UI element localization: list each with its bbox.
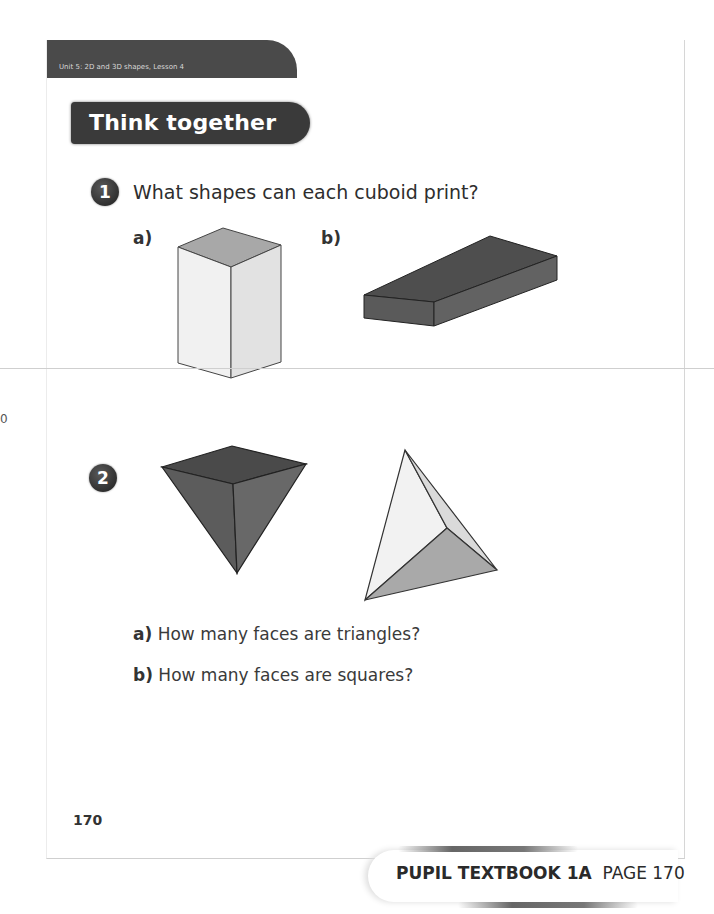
footer-label: PUPIL TEXTBOOK 1A PAGE 170 (396, 863, 685, 883)
triangular-pyramid-figure (47, 40, 684, 858)
question-2a: a) How many faces are triangles? (133, 624, 420, 644)
question-2a-text: How many faces are triangles? (158, 624, 421, 644)
page-number: 170 (73, 812, 102, 828)
question-2b-label: b) (133, 665, 153, 685)
footer-decor-bar-bottom (458, 902, 638, 908)
footer-tab: PUPIL TEXTBOOK 1A PAGE 170 (368, 850, 678, 902)
question-2a-label: a) (133, 624, 152, 644)
footer-book: PUPIL TEXTBOOK 1A (396, 863, 592, 883)
question-2b-text: How many faces are squares? (158, 665, 413, 685)
footer-decor-bar-top (398, 846, 578, 852)
footer-page: PAGE 170 (602, 863, 684, 883)
textbook-page: Unit 5: 2D and 3D shapes, Lesson 4 Think… (46, 40, 685, 859)
edge-mark: 0 (0, 412, 8, 426)
scan-divider-line (0, 368, 714, 369)
question-2b: b) How many faces are squares? (133, 665, 413, 685)
